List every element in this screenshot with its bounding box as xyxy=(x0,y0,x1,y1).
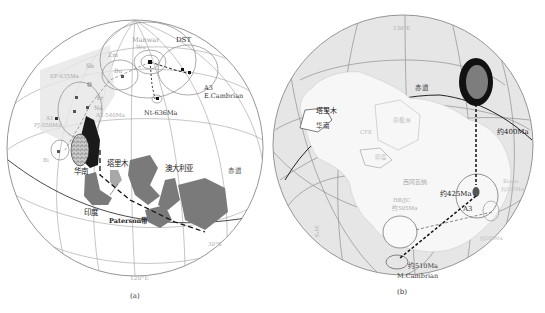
label-510ma: 约510Ma xyxy=(408,261,438,270)
label-ef: EF-635Ma xyxy=(50,73,80,79)
caption-a: (a) xyxy=(130,292,140,300)
panel-a: Manwar DST Wu Zm Sb Bu EF-635Ma Tr Na A2… xyxy=(7,20,265,281)
figure-canvas: Manwar DST Wu Zm Sb Bu EF-635Ma Tr Na A2… xyxy=(0,0,545,313)
label-lon-b: 130°E xyxy=(393,25,410,31)
label-hr-age: 约505Ma xyxy=(392,204,418,212)
label-wu: Wu xyxy=(136,43,146,50)
label-bu: Bu xyxy=(114,67,122,74)
label-bi: Bi xyxy=(43,157,49,163)
label-india: 印度 xyxy=(84,207,99,217)
label-lat-a: 30°S xyxy=(208,241,222,247)
label-pj: PJ-550Ma xyxy=(34,122,62,129)
label-a3-b: A3 xyxy=(462,205,473,213)
label-right-1: Bowie xyxy=(503,178,519,184)
label-a1: A1 xyxy=(45,115,53,121)
panel-b: 130°E 赤道 塔里木 华南 CFK 南极洲 印度 西冈瓦纳 约400Ma 约… xyxy=(272,15,533,285)
label-a2: A2-540Ma xyxy=(95,112,125,118)
pole-425ma xyxy=(473,187,480,197)
pole-400ma-core xyxy=(466,65,488,99)
caption-b: (b) xyxy=(397,288,407,296)
label-sb: Sb xyxy=(86,62,94,69)
south-china-block xyxy=(71,134,89,166)
label-nt: Nt-636Ma xyxy=(144,109,178,117)
label-a3-age: E.Cambrian xyxy=(204,92,243,100)
label-south-china-b: 华南 xyxy=(316,121,330,130)
label-equator-b: 赤道 xyxy=(415,83,429,92)
label-425ma: 约425Ma xyxy=(440,189,472,198)
label-tr: Tr xyxy=(96,94,103,101)
label-400ma: 约400Ma xyxy=(497,127,529,136)
label-na: Na xyxy=(94,104,103,111)
label-tarim-b: 塔里木 xyxy=(316,106,337,115)
label-west-gondwana: 西冈瓦纳 xyxy=(403,178,427,186)
label-equator-a: 赤道 xyxy=(228,166,242,175)
hr-circle xyxy=(383,216,417,248)
label-side: 30°S xyxy=(314,225,320,238)
label-m-cambrian: M.Cambrian xyxy=(397,272,438,280)
label-paterson: Paterson带 xyxy=(109,216,148,225)
label-south-china: 华南 xyxy=(74,166,89,176)
label-india-b: 印度 xyxy=(375,153,387,161)
label-a3: A3 xyxy=(203,84,213,92)
label-hr: HR/JC xyxy=(393,197,410,204)
label-right-2: 约505Ma xyxy=(501,186,524,193)
label-australia: 澳大利亚 xyxy=(165,163,194,173)
label-lon-a: 120°E xyxy=(130,274,149,281)
label-cfk: CFK xyxy=(360,129,373,135)
label-antarctica: 南极洲 xyxy=(393,116,411,124)
label-lower-right: 约505Ma xyxy=(480,235,503,242)
label-dst: DST xyxy=(176,36,191,44)
label-tarim: 塔里木 xyxy=(107,158,129,168)
label-zm: Zm xyxy=(108,51,118,58)
